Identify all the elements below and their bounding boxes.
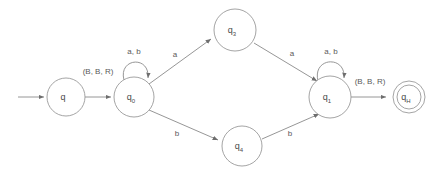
edge-label-q1-to-qH: (B, B, R) [355, 77, 386, 86]
edge-label-q-to-q0: (B, B, R) [83, 67, 114, 76]
edge-q0-to-q3: a [149, 39, 211, 84]
state-diagram-canvas: (B, B, R) a, b a b a b a, [0, 0, 441, 175]
edge-q4-to-q1: b [262, 114, 319, 139]
state-circle-q[interactable] [47, 78, 85, 116]
edge-self-loop-q0: a, b [123, 47, 148, 80]
state-sub-qH: H [406, 98, 410, 104]
state-base-q: q [60, 92, 65, 102]
state-node-q3[interactable]: q3 [214, 9, 256, 51]
edge-q1-to-qH: (B, B, R) [351, 77, 386, 97]
edge-label-self-loop-q0: a, b [127, 47, 141, 56]
state-node-q4[interactable]: q4 [222, 126, 262, 166]
edge-q3-to-q1: a [254, 43, 317, 81]
state-node-qH[interactable]: qH [393, 81, 425, 113]
state-node-q1[interactable]: q1 [309, 76, 351, 118]
edge-label-q4-to-q1: b [288, 129, 293, 138]
edge-label-q0-to-q4: b [175, 129, 180, 138]
state-node-q0[interactable]: q0 [114, 77, 154, 117]
edge-label-self-loop-q1: a, b [324, 47, 338, 56]
state-node-q[interactable]: q [47, 78, 85, 116]
edge-label-q3-to-q1: a [290, 49, 295, 58]
edge-label-q0-to-q3: a [173, 50, 178, 59]
edge-q-to-q0: (B, B, R) [83, 67, 114, 97]
state-label-q: q [60, 92, 65, 102]
edge-q0-to-q4: b [149, 110, 218, 140]
